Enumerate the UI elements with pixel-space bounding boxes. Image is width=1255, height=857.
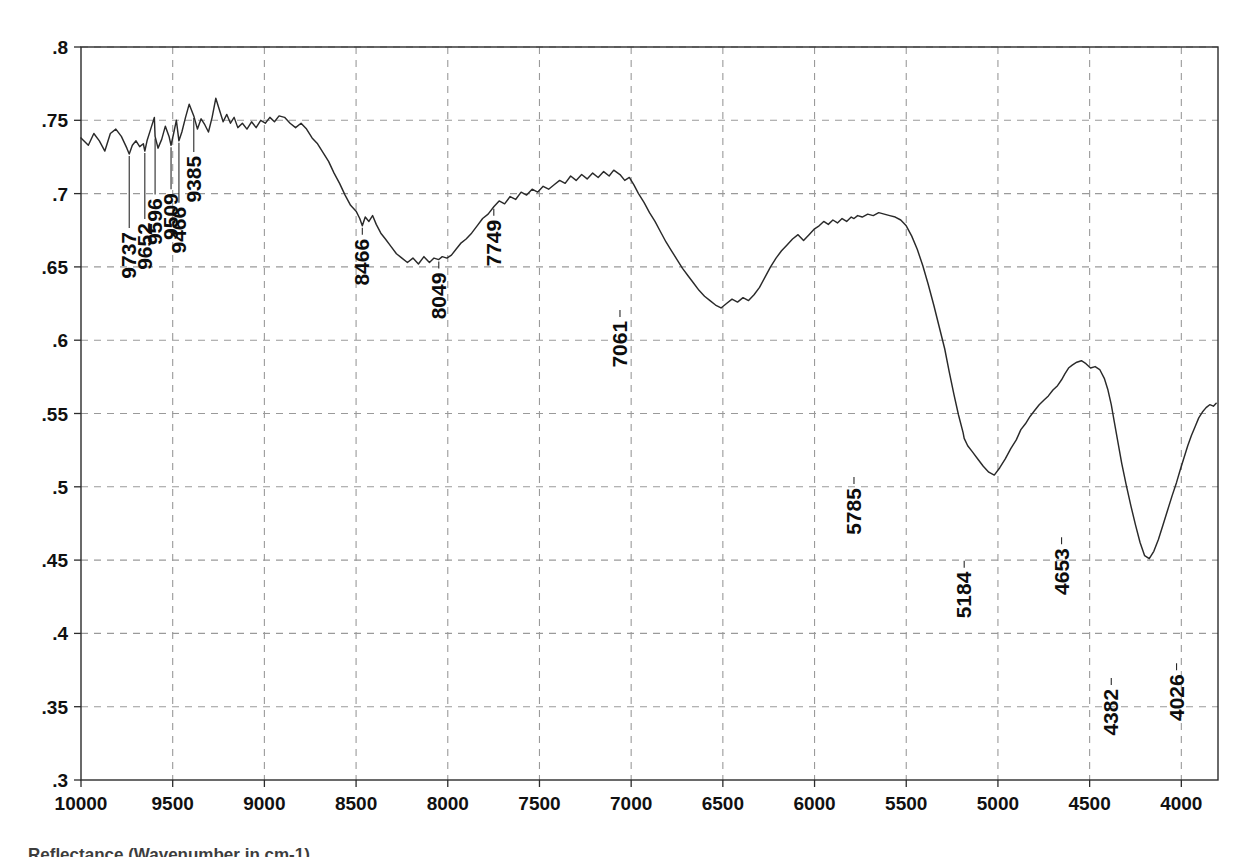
y-tick-label: .45 — [42, 550, 69, 571]
peak-label: 4026 — [1165, 674, 1188, 721]
x-tick-label: 4000 — [1160, 793, 1202, 814]
x-tick-label: 6500 — [702, 793, 744, 814]
x-tick-label: 9500 — [152, 793, 194, 814]
peak-label: 7749 — [482, 220, 505, 267]
y-tick-label: .6 — [52, 330, 68, 351]
y-tick-label: .65 — [42, 257, 69, 278]
peak-label: 5785 — [842, 488, 865, 535]
peak-label: 8049 — [427, 273, 450, 320]
peak-label: 4382 — [1099, 689, 1122, 736]
y-tick-label: .3 — [52, 770, 68, 791]
y-tick-label: .7 — [52, 184, 68, 205]
y-tick-label: .5 — [52, 477, 68, 498]
y-tick-label: .35 — [42, 697, 69, 718]
peak-label: 9466 — [167, 207, 190, 254]
peak-label: 4653 — [1050, 548, 1073, 595]
peak-annotations: 9737965295969509946693858466804977497061… — [117, 118, 1187, 736]
y-tick-label: .8 — [52, 37, 68, 58]
x-tick-label: 5500 — [885, 793, 927, 814]
y-tick-label: .75 — [42, 110, 69, 131]
x-axis-tick-labels: 1000095009000850080007500700065006000550… — [55, 780, 1203, 814]
spectrum-figure: .3.35.4.45.5.55.6.65.7.75.8 100009500900… — [0, 0, 1255, 857]
peak-label: 5184 — [952, 571, 975, 618]
spectrum-curve — [81, 98, 1216, 558]
x-tick-label: 9000 — [243, 793, 285, 814]
gridlines — [81, 47, 1218, 780]
y-axis-tick-labels: .3.35.4.45.5.55.6.65.7.75.8 — [42, 37, 81, 791]
x-tick-label: 8500 — [335, 793, 377, 814]
y-tick-label: .4 — [52, 623, 68, 644]
x-tick-label: 10000 — [55, 793, 108, 814]
spectrum-trace — [81, 98, 1216, 558]
x-tick-label: 5000 — [977, 793, 1019, 814]
x-tick-label: 7000 — [610, 793, 652, 814]
peak-label: 8466 — [350, 239, 373, 286]
y-tick-label: .55 — [42, 404, 69, 425]
peak-label: 9385 — [182, 156, 205, 203]
peak-label: 7061 — [608, 321, 631, 368]
spectrum-plot: .3.35.4.45.5.55.6.65.7.75.8 100009500900… — [0, 0, 1255, 857]
x-tick-label: 4500 — [1068, 793, 1110, 814]
x-tick-label: 6000 — [793, 793, 835, 814]
x-tick-label: 7500 — [518, 793, 560, 814]
figure-caption: Reflectance (Wavenumber in cm-1) — [28, 846, 628, 857]
x-tick-label: 8000 — [427, 793, 469, 814]
